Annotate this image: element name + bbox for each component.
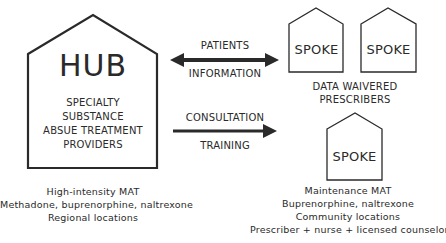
consultation-label: CONSULTATION [170,112,280,124]
hub-caption-line: Regional locations [0,211,186,224]
spoke-caption-line: Maintenance MAT [250,184,446,197]
spoke-house-shape-2 [361,8,416,72]
spoke-caption-line: Buprenorphine, naltrexone [250,197,446,210]
hub-description-line: SPECIALTY [28,96,158,110]
hub-caption-line: Methadone, buprenorphine, naltrexone [0,198,186,211]
spoke-house-shape-3 [327,113,382,180]
training-label: TRAINING [170,140,280,152]
double-arrow-icon [170,53,279,67]
patients-label: PATIENTS [170,40,280,52]
spoke-caption-line: Prescriber + nurse + licensed counselor [250,223,446,236]
spoke-caption: Maintenance MAT Buprenorphine, naltrexon… [250,184,446,236]
spoke-label-2: SPOKE [361,42,416,57]
spoke-label-1: SPOKE [289,42,344,57]
prescribers-caption-line: DATA WAIVERED [290,80,420,93]
spoke-caption-line: Community locations [250,210,446,223]
hub-description-line: PROVIDERS [28,138,158,152]
hub-description: SPECIALTY SUBSTANCE ABSUE TREATMENT PROV… [28,96,158,152]
hub-caption: High-intensity MAT Methadone, buprenorph… [0,185,186,224]
spoke-house-shape-1 [289,8,343,72]
hub-caption-line: High-intensity MAT [0,185,186,198]
hub-description-line: ABSUE TREATMENT [28,124,158,138]
prescribers-caption: DATA WAIVERED PRESCRIBERS [290,80,420,106]
information-label: INFORMATION [170,68,280,80]
spoke-label-3: SPOKE [327,149,382,164]
right-arrow-icon [173,124,277,138]
prescribers-caption-line: PRESCRIBERS [290,93,420,106]
hub-title: HUB [28,50,158,82]
hub-description-line: SUBSTANCE [28,110,158,124]
